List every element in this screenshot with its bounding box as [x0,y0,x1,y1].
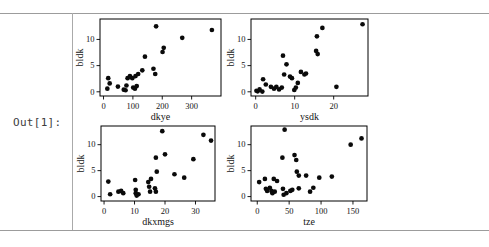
data-point [359,136,364,141]
x-tick-label: 100 [315,206,328,216]
data-point [360,22,365,27]
y-tick-label: 5 [241,165,245,175]
data-point [294,158,299,163]
data-point [121,191,126,196]
data-point [294,85,299,90]
y-axis-label: bldk [225,155,236,173]
data-point [106,76,111,81]
data-point [292,153,297,158]
x-tick-label: 0 [101,101,105,111]
x-tick-label: 10 [290,101,299,111]
data-point [260,89,265,94]
data-point [261,77,266,82]
x-axis-label: dkxmgs [142,216,174,227]
data-point [334,84,339,89]
data-point [160,129,165,134]
data-point [161,45,166,50]
data-point [317,175,322,180]
x-tick-label: 0 [255,206,259,216]
x-tick-label: 0 [254,101,258,111]
data-point [275,179,280,184]
data-point [281,53,286,58]
scatter-plot-tze: 0501001500510tzebldk [224,120,386,230]
data-point [149,177,154,182]
data-point [123,88,128,93]
y-axis-label: bldk [74,49,85,67]
y-axis-label: bldk [225,49,236,67]
data-point [116,84,121,89]
data-point [290,76,295,81]
data-point [311,185,316,190]
data-point [320,26,325,31]
data-point [280,155,285,160]
data-point [209,138,214,143]
data-point [180,36,185,41]
data-point [201,132,206,137]
data-point [163,152,168,157]
data-point [284,62,289,67]
data-point [263,82,268,87]
data-point [257,180,262,185]
y-tick-label: 10 [237,139,246,149]
y-tick-label: 0 [90,87,94,97]
plot-frame [251,19,368,96]
data-point [315,34,320,39]
x-tick-label: 150 [347,206,360,216]
y-tick-label: 0 [241,191,245,201]
out-label: Out[1]: [13,116,61,129]
data-point [143,54,148,59]
data-point [124,83,129,88]
data-point [281,186,286,191]
data-point [304,71,309,76]
y-tick-label: 10 [237,34,246,44]
data-point [154,155,159,160]
data-point [290,187,295,192]
data-point [295,81,300,86]
data-point [153,72,158,77]
x-axis-label: tze [303,216,315,227]
data-point [348,142,353,147]
x-tick-label: 200 [156,101,169,111]
data-point [272,189,277,194]
data-point [191,157,196,162]
data-point [105,86,110,91]
data-point [140,68,145,73]
data-point [134,84,139,89]
data-point [282,127,287,132]
x-tick-label: 50 [285,206,294,216]
data-point [136,192,141,197]
x-tick-label: 20 [329,101,338,111]
bottom-divider [0,230,489,231]
y-tick-label: 10 [87,139,96,149]
x-tick-label: 100 [127,101,140,111]
data-point [315,52,320,57]
data-point [108,192,113,197]
data-point [148,189,153,194]
data-point [133,178,138,183]
data-point [296,173,301,178]
data-point [182,175,187,180]
data-point [172,172,177,177]
data-point [329,174,334,179]
scatter-plot-dkye: 01002003000510dkyebldk [72,14,234,120]
x-tick-label: 300 [185,101,198,111]
x-tick-label: 0 [102,206,106,216]
y-tick-label: 5 [91,165,95,175]
data-point [154,169,159,174]
data-point [304,173,309,178]
y-tick-label: 0 [91,191,95,201]
x-tick-label: 20 [161,206,170,216]
notebook-output-cell: Out[1]: 01002003000510dkyebldk010200510y… [0,0,489,247]
data-point [210,28,215,33]
x-tick-label: 30 [191,206,200,216]
data-point [296,186,301,191]
data-point [284,191,289,196]
data-point [263,177,268,182]
scatter-plot-dkxmgs: 01020300510dkxmgsbldk [72,120,234,230]
data-point [154,24,159,29]
data-point [106,179,111,184]
data-point [160,50,165,55]
y-tick-label: 0 [241,87,245,97]
y-tick-label: 10 [86,34,95,44]
x-tick-label: 10 [130,206,139,216]
